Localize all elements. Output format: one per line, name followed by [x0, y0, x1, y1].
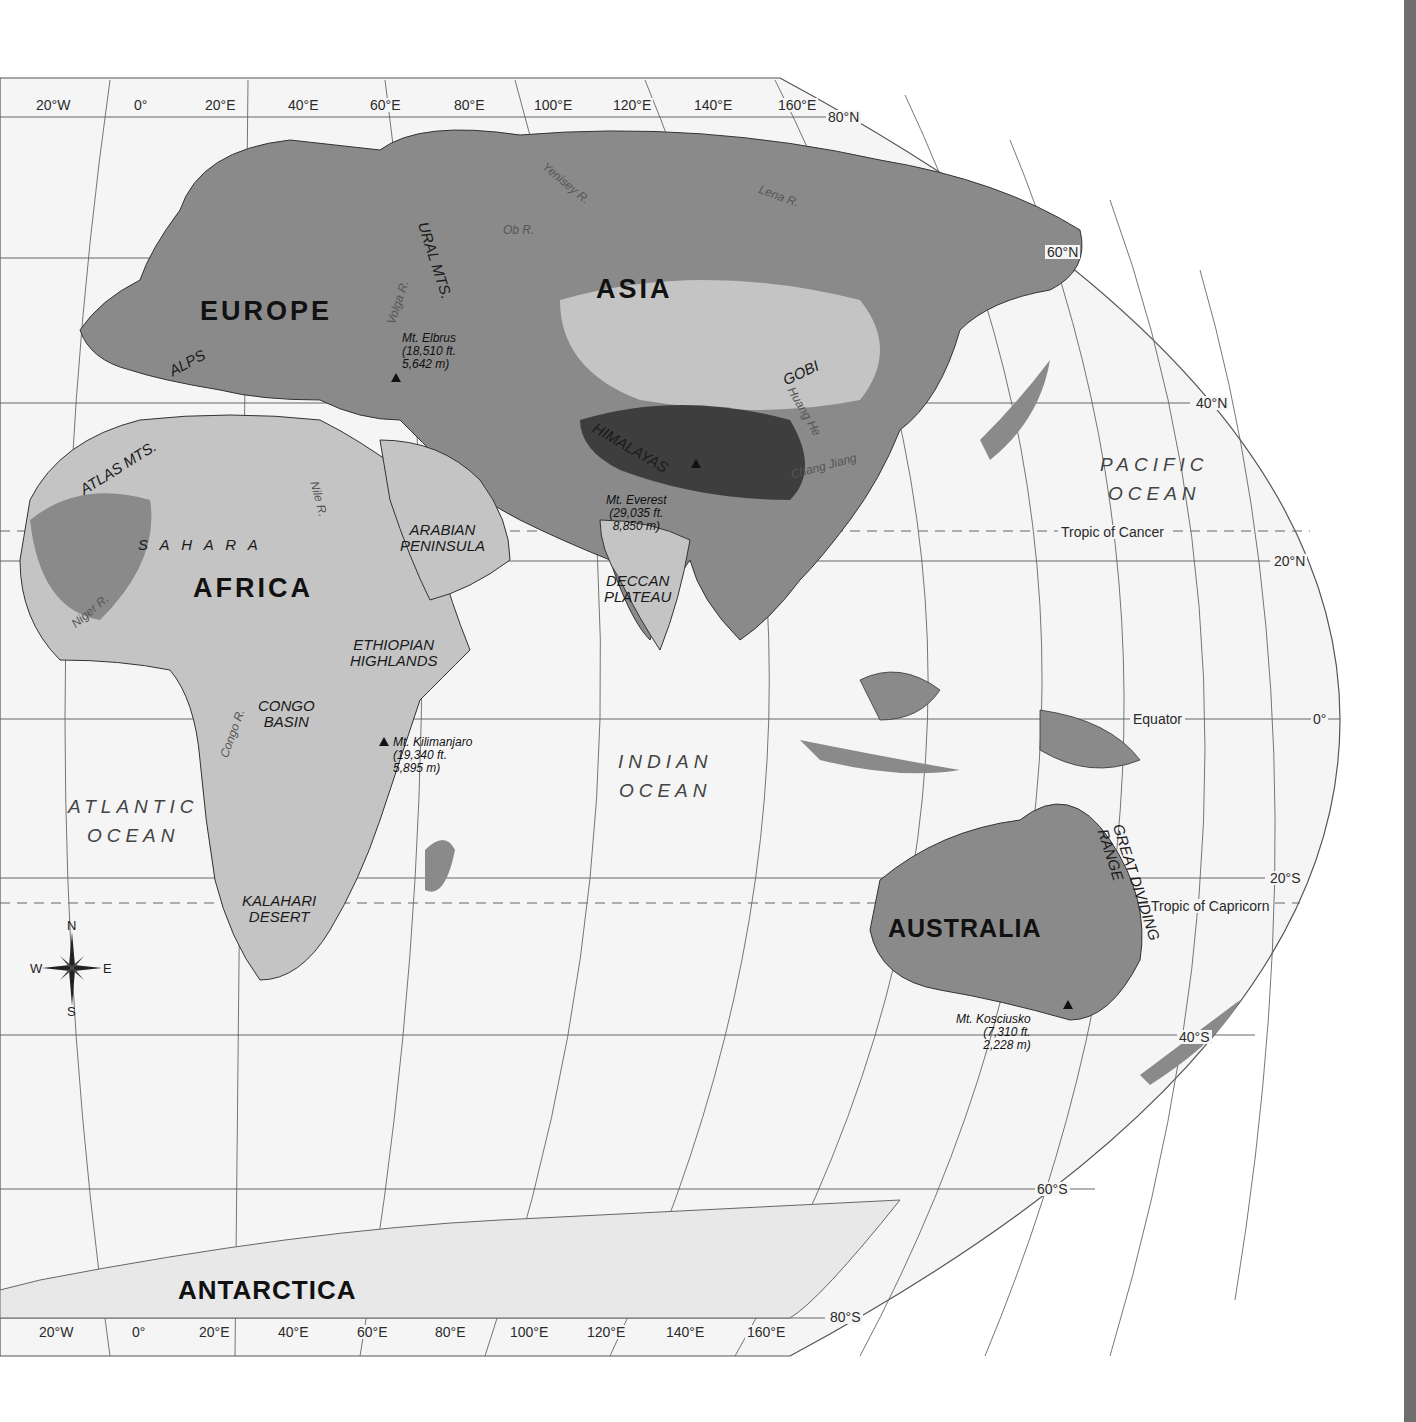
equator-label: Equator	[1130, 712, 1185, 726]
lon-label-top: 140°E	[692, 98, 734, 112]
lat-label: 80°N	[826, 110, 861, 124]
lat-label: 0°	[1311, 712, 1328, 726]
book-spine	[1404, 0, 1416, 1422]
compass-s: S	[67, 1004, 76, 1019]
lat-label: 60°S	[1035, 1182, 1070, 1196]
continent-europe: EUROPE	[200, 298, 332, 325]
continent-africa: AFRICA	[193, 575, 313, 602]
map-canvas	[0, 0, 1416, 1422]
continent-asia: ASIA	[596, 276, 673, 303]
tropic-of-cancer-label: Tropic of Cancer	[1058, 525, 1167, 539]
lon-label-top: 20°E	[203, 98, 238, 112]
peak-mt-elbrus: Mt. Elbrus (18,510 ft. 5,642 m)	[402, 332, 456, 372]
lat-label: 80°S	[828, 1310, 863, 1324]
lon-label-bottom: 140°E	[664, 1325, 706, 1339]
tropic-of-capricorn-label: Tropic of Capricorn	[1148, 899, 1273, 913]
feature-deccan-plateau: DECCAN PLATEAU	[604, 573, 671, 605]
feature-kalahari-desert: KALAHARI DESERT	[242, 893, 316, 925]
compass-e: E	[103, 961, 112, 976]
lat-label: 40°N	[1194, 396, 1229, 410]
feature-sahara: S A H A R A	[138, 537, 262, 553]
lat-label: 60°N	[1045, 245, 1080, 259]
lon-label-bottom: 120°E	[585, 1325, 627, 1339]
lon-label-top: 120°E	[611, 98, 653, 112]
lon-label-bottom: 160°E	[745, 1325, 787, 1339]
lon-label-bottom: 0°	[130, 1325, 147, 1339]
lon-label-bottom: 80°E	[433, 1325, 468, 1339]
lon-label-bottom: 20°W	[37, 1325, 75, 1339]
feature-congo-basin: CONGO BASIN	[258, 698, 315, 730]
continent-australia: AUSTRALIA	[888, 916, 1041, 941]
peak-mt-kosciusko: Mt. Kosciusko (7,310 ft. 2,228 m)	[956, 1013, 1031, 1053]
feature-arabian-peninsula: ARABIAN PENINSULA	[400, 522, 485, 554]
lat-label: 40°S	[1177, 1030, 1212, 1044]
feature-ethiopian-highlands: ETHIOPIAN HIGHLANDS	[350, 637, 438, 669]
lon-label-top: 0°	[132, 98, 149, 112]
lon-label-top: 100°E	[532, 98, 574, 112]
river-ob: Ob R.	[503, 224, 534, 236]
continent-antarctica: ANTARCTICA	[178, 1277, 357, 1303]
lon-label-top: 40°E	[286, 98, 321, 112]
compass-n: N	[67, 918, 76, 933]
lon-label-bottom: 20°E	[197, 1325, 232, 1339]
lon-label-bottom: 60°E	[355, 1325, 390, 1339]
lon-label-bottom: 40°E	[276, 1325, 311, 1339]
compass-rose: N S W E	[30, 918, 110, 1018]
peak-mt-kilimanjaro: Mt. Kilimanjaro (19,340 ft. 5,895 m)	[393, 736, 472, 776]
lon-label-bottom: 100°E	[508, 1325, 550, 1339]
ocean-pacific: PACIFIC OCEAN	[1100, 455, 1209, 503]
ocean-indian: INDIAN OCEAN	[618, 752, 712, 800]
lat-label: 20°S	[1268, 871, 1303, 885]
lon-label-top: 160°E	[776, 98, 818, 112]
lon-label-top: 20°W	[34, 98, 72, 112]
compass-w: W	[30, 961, 42, 976]
lon-label-top: 80°E	[452, 98, 487, 112]
lon-label-top: 60°E	[368, 98, 403, 112]
ocean-atlantic: ATLANTIC OCEAN	[68, 797, 198, 845]
lat-label: 20°N	[1272, 554, 1307, 568]
peak-mt-everest: Mt. Everest (29,035 ft. 8,850 m)	[606, 494, 667, 534]
